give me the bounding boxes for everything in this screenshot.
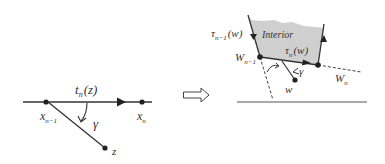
point-x-n	[139, 99, 144, 104]
label-w-n: Wn	[335, 72, 348, 87]
label-z: z	[111, 145, 117, 157]
label-x-n-1: xn−1	[39, 109, 57, 125]
left-diagram: tn(z) xn−1 xn z γ	[23, 82, 152, 157]
label-tau-n-1: τn−1(w)	[211, 27, 243, 42]
label-interior: Interior	[261, 29, 293, 40]
angle-arc-left	[267, 65, 278, 72]
vertex-w-n-1	[257, 54, 263, 60]
point-w	[292, 77, 297, 82]
label-x-n: xn	[136, 109, 146, 125]
label-gamma-right: γ	[299, 65, 304, 77]
point-z	[102, 145, 107, 150]
label-w-n-1: Wn−1	[235, 51, 256, 66]
dashed-extension-left	[260, 57, 273, 100]
label-gamma: γ	[93, 116, 99, 131]
vertex-w-n	[315, 62, 321, 68]
right-diagram: Interior τn−1(w) τn(w) Wn−1 Wn w γ	[211, 15, 367, 102]
dashed-extension-right	[318, 65, 361, 72]
diagram-canvas: tn(z) xn−1 xn z γ Interior τn−1(w) τn(w)…	[0, 0, 385, 164]
label-t-n-z: tn(z)	[75, 82, 97, 99]
label-w: w	[285, 83, 293, 95]
point-x-n-1	[43, 99, 48, 104]
direction-arrow-icon	[117, 98, 126, 107]
implies-arrow-icon	[184, 88, 210, 102]
segment-to-w	[282, 61, 295, 80]
